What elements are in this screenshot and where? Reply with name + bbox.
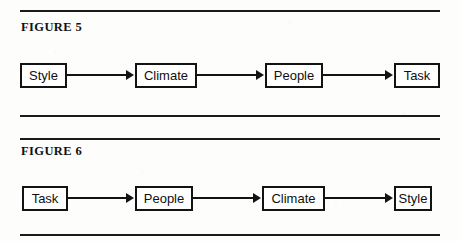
figure-5-arrowhead-3 xyxy=(385,70,393,80)
figure-6-node-task: Task xyxy=(22,186,68,211)
figure-5-connector-2 xyxy=(197,74,257,76)
figure-6-label: FIGURE 6 xyxy=(21,144,82,159)
figure-5-label: FIGURE 5 xyxy=(21,20,82,35)
horizontal-rule-top xyxy=(20,10,440,12)
figure-6-node-people: People xyxy=(135,186,193,211)
scanned-figure-page: FIGURE 5 Style Climate People Task FIGUR… xyxy=(0,0,460,241)
figure-6-connector-1 xyxy=(68,197,127,199)
figure-6-node-climate: Climate xyxy=(262,186,325,211)
horizontal-rule-bottom xyxy=(20,234,440,236)
figure-6-connector-3 xyxy=(325,197,386,199)
figure-6-arrowhead-1 xyxy=(126,193,134,203)
figure-6-node-style: Style xyxy=(394,186,432,211)
horizontal-rule-middle-upper xyxy=(20,115,440,117)
horizontal-rule-middle-lower xyxy=(20,138,440,140)
figure-5-arrowhead-1 xyxy=(126,70,134,80)
figure-5-arrowhead-2 xyxy=(256,70,264,80)
figure-5-node-people: People xyxy=(265,63,323,88)
figure-5-node-task: Task xyxy=(394,63,440,88)
figure-5-connector-1 xyxy=(67,74,127,76)
figure-6-arrowhead-2 xyxy=(253,193,261,203)
figure-5-node-style: Style xyxy=(20,63,67,88)
figure-6-arrowhead-3 xyxy=(385,193,393,203)
figure-5-node-climate: Climate xyxy=(135,63,197,88)
figure-6-connector-2 xyxy=(193,197,254,199)
figure-5-connector-3 xyxy=(323,74,385,76)
